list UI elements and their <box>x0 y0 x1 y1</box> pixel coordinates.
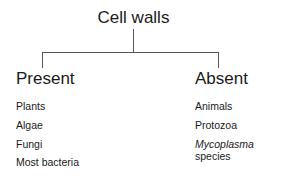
list-item: Most bacteria <box>16 156 79 168</box>
left-branch-connector <box>42 52 43 68</box>
list-item-mycoplasma: Mycoplasma species <box>195 138 292 162</box>
list-item: Animals <box>195 100 232 112</box>
italic-genus-name: Mycoplasma <box>195 138 254 150</box>
species-suffix: species <box>195 150 231 162</box>
horizontal-connector <box>42 52 219 53</box>
list-item: Fungi <box>16 138 42 150</box>
list-item: Plants <box>16 100 45 112</box>
branch-present-label: Present <box>16 69 75 89</box>
root-connector <box>133 29 134 52</box>
branch-absent-label: Absent <box>195 69 248 89</box>
list-item: Protozoa <box>195 119 237 131</box>
list-item: Algae <box>16 119 43 131</box>
root-node-title: Cell walls <box>0 8 267 28</box>
right-branch-connector <box>218 52 219 68</box>
